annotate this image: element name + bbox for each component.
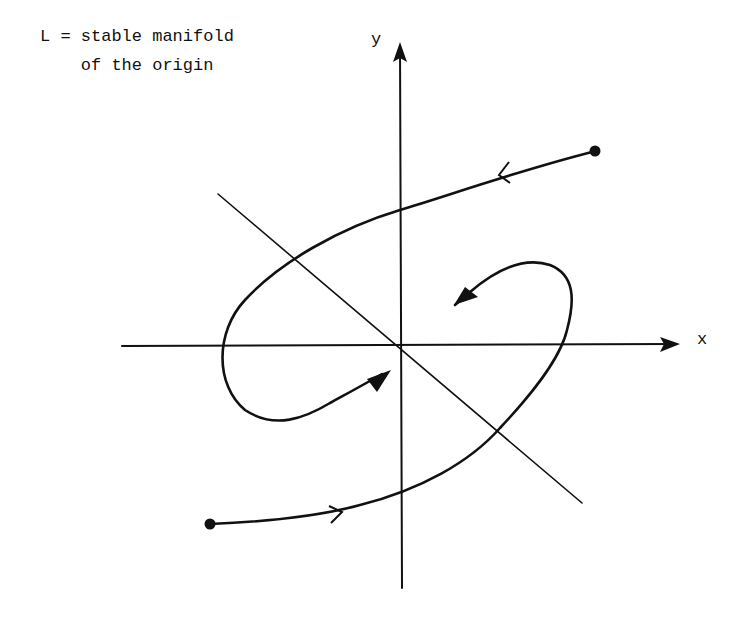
arrow-upper-inner-icon xyxy=(367,370,391,392)
x-axis xyxy=(122,344,676,346)
phase-portrait xyxy=(0,0,745,621)
lower-trajectory xyxy=(210,262,572,524)
lower-trajectory-start-dot xyxy=(205,519,216,530)
upper-trajectory-start-dot xyxy=(590,146,601,157)
arrow-upper-outer-icon xyxy=(499,162,510,183)
y-axis xyxy=(400,46,402,588)
